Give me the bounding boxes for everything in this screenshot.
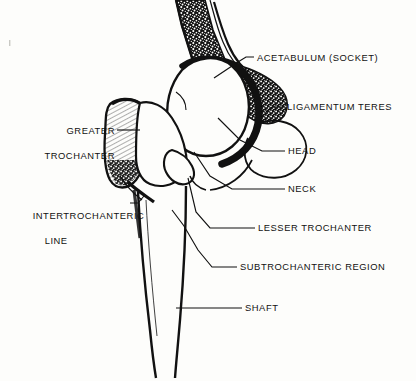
label-lesser-trochanter: LESSER TROCHANTER [258, 222, 372, 235]
inferior-pubic-ramus [210, 160, 252, 190]
ink-speck [9, 40, 10, 46]
label-intertrochanteric-line1: INTERTROCHANTERIC [33, 210, 145, 221]
label-greater-trochanter-line2: TROCHANTER [44, 150, 115, 161]
label-acetabulum: ACETABULUM (SOCKET) [257, 52, 378, 65]
label-greater-trochanter: GREATER TROCHANTER [22, 112, 115, 175]
anatomy-figure: ACETABULUM (SOCKET) LIGAMENTUM TERES HEA… [0, 0, 416, 381]
femoral-shaft-lateral-border [175, 186, 186, 378]
label-greater-trochanter-line1: GREATER [67, 125, 115, 136]
label-ligamentum-teres: LIGAMENTUM TERES [287, 101, 392, 114]
label-intertrochanteric-line2: LINE [33, 235, 68, 248]
label-subtrochanteric-region: SUBTROCHANTERIC REGION [240, 261, 385, 274]
label-neck: NECK [288, 183, 316, 196]
label-shaft: SHAFT [245, 302, 278, 315]
leader-subtrochanteric [172, 210, 237, 267]
label-intertrochanteric-line: INTERTROCHANTERIC LINE [20, 197, 144, 260]
label-head: HEAD [288, 145, 316, 158]
